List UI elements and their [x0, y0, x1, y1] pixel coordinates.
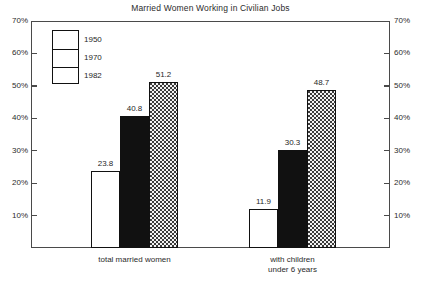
legend-label-1950: 1950: [84, 36, 102, 44]
x-axis-group-label-2: with childrenunder 6 years: [233, 255, 353, 275]
y-axis-tick-label-left-60: 60%: [2, 49, 28, 57]
legend-label-1982: 1982: [84, 72, 102, 80]
y-axis-tick-mark-left-20: [31, 183, 37, 184]
y-axis-tick-label-right-60: 60%: [394, 49, 410, 57]
y-axis-tick-mark-right-30: [384, 150, 390, 151]
y-axis-tick-mark-left-50: [31, 85, 37, 86]
bar-1950-group1: [91, 171, 120, 248]
y-axis-tick-label-right-30: 30%: [394, 147, 410, 155]
y-axis-tick-label-left-30: 30%: [2, 147, 28, 155]
bar-value-label-1982-group1: 51.2: [143, 71, 184, 79]
y-axis-tick-mark-left-60: [31, 53, 37, 54]
y-axis-tick-mark-left-30: [31, 150, 37, 151]
bar-value-label-1982-group2: 48.7: [301, 79, 342, 87]
bar-1982-group2: [307, 90, 336, 248]
y-axis-tick-label-right-20: 20%: [394, 179, 410, 187]
y-axis-tick-label-right-70: 70%: [394, 17, 410, 25]
legend-swatch-1982: [53, 67, 78, 85]
x-axis-group-label-1: total married women: [75, 255, 195, 265]
legend-swatch-1950: [53, 31, 78, 49]
bar-1970-group2: [278, 150, 307, 248]
x-axis-group-label-line: under 6 years: [233, 265, 353, 275]
y-axis-tick-label-left-50: 50%: [2, 82, 28, 90]
y-axis-tick-mark-left-10: [31, 215, 37, 216]
y-axis-tick-mark-right-50: [384, 85, 390, 86]
y-axis-tick-label-left-10: 10%: [2, 212, 28, 220]
bar-1950-group2: [249, 209, 278, 248]
y-axis-tick-mark-left-40: [31, 118, 37, 119]
y-axis-tick-label-left-70: 70%: [2, 17, 28, 25]
y-axis-tick-label-right-10: 10%: [394, 212, 410, 220]
bar-chart: Married Women Working in Civilian Jobs 1…: [0, 0, 421, 286]
y-axis-tick-mark-right-60: [384, 53, 390, 54]
legend-swatch-1970: [53, 49, 78, 67]
bar-1970-group1: [120, 116, 149, 248]
legend: [52, 30, 79, 84]
x-axis-group-label-line: with children: [233, 255, 353, 265]
chart-title: Married Women Working in Civilian Jobs: [0, 3, 421, 13]
legend-label-1970: 1970: [84, 54, 102, 62]
y-axis-tick-mark-right-20: [384, 183, 390, 184]
y-axis-tick-label-right-40: 40%: [394, 114, 410, 122]
y-axis-tick-mark-right-40: [384, 118, 390, 119]
y-axis-tick-label-left-40: 40%: [2, 114, 28, 122]
bar-1982-group1: [149, 82, 178, 248]
x-axis-group-label-line: total married women: [75, 255, 195, 265]
y-axis-tick-label-left-20: 20%: [2, 179, 28, 187]
y-axis-tick-mark-right-10: [384, 215, 390, 216]
y-axis-tick-label-right-50: 50%: [394, 82, 410, 90]
